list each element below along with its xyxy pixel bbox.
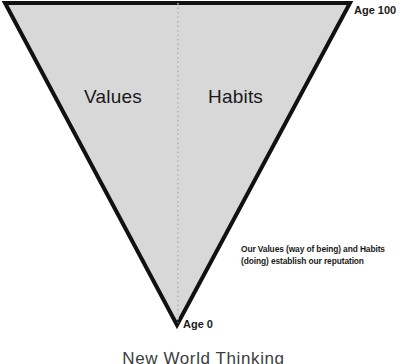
segment-label-values: Values <box>84 86 142 108</box>
segment-label-habits: Habits <box>208 86 263 108</box>
diagram-canvas: Values Habits Age 100 Age 0 Our Values (… <box>0 0 407 364</box>
axis-label-age-0: Age 0 <box>183 318 213 330</box>
triangle-shape <box>5 3 350 325</box>
inverted-triangle-diagram <box>0 0 407 364</box>
caption-text: Our Values (way of being) and Habits (do… <box>241 243 407 267</box>
figure-title-clipped: New World Thinking <box>0 349 407 364</box>
axis-label-age-100: Age 100 <box>354 4 396 16</box>
